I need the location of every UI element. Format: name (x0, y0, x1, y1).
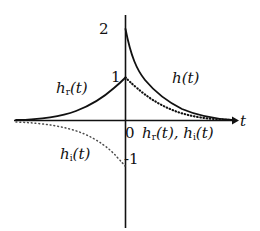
h-total-arg: (t) (182, 69, 200, 87)
curve-label-h-total: h(t) (172, 71, 199, 86)
y-axis-label: hr(t), hi(t) (142, 126, 214, 141)
y-axis-first-subscript: r (152, 132, 156, 142)
h-real-arg: (t) (70, 79, 88, 97)
y-axis-second-subscript: i (193, 132, 196, 142)
origin-label-0: 0 (125, 126, 135, 141)
y-tick-label-2: 2 (99, 22, 109, 37)
curve-label-h-real: hr(t) (56, 81, 88, 96)
y-axis-separator: ), (168, 124, 183, 142)
plot-canvas (0, 0, 260, 231)
y-axis-close-paren: (t) (196, 124, 214, 142)
curve-label-h-imag: hi(t) (60, 147, 90, 162)
h-total-base: h (172, 69, 182, 87)
y-axis-second-base: h (183, 124, 193, 142)
h-imag-subscript: i (70, 153, 73, 163)
h-real-subscript: r (66, 87, 70, 97)
x-axis-arrow-icon (232, 117, 239, 125)
y-axis-open-paren: (t (156, 124, 168, 142)
impulse-response-figure: 2 1 0 -1 hr(t) hi(t) h(t) t hr(t), hi(t) (0, 0, 260, 231)
h-real-base: h (56, 79, 66, 97)
x-axis-label: t (240, 114, 246, 129)
y-tick-label-1: 1 (111, 70, 121, 85)
h-imag-arg: (t) (73, 145, 91, 163)
y-tick-label-minus-1: -1 (124, 152, 139, 167)
y-axis-first-base: h (142, 124, 152, 142)
h-imag-base: h (60, 145, 70, 163)
